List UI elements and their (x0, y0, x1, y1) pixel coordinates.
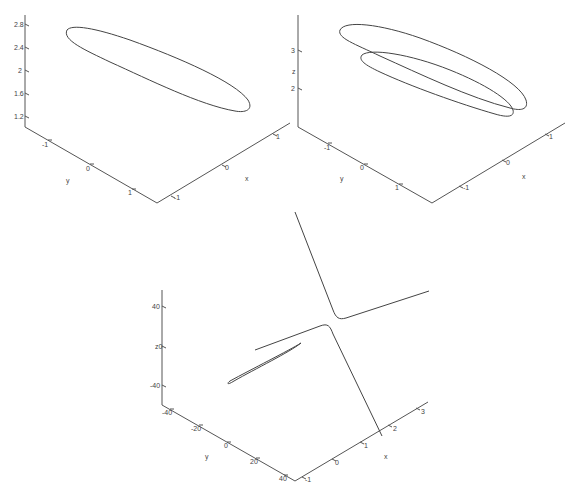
plot-1: 2.8 2.4 2 1.6 1.2 -1 0 1 y -1 0 1 (14, 15, 290, 203)
svg-text:-40: -40 (162, 409, 172, 416)
svg-text:-1: -1 (463, 184, 469, 191)
svg-text:-40: -40 (150, 382, 160, 389)
svg-text:0: 0 (506, 159, 510, 166)
svg-text:3: 3 (291, 47, 295, 54)
plot-2: 3 z 2 -1 0 1 y -1 0 1 x (291, 15, 565, 203)
svg-text:2.8: 2.8 (14, 21, 24, 28)
plot1-x-label: x (245, 175, 249, 182)
plot3-y-axis (162, 405, 295, 481)
svg-text:0: 0 (335, 459, 339, 466)
svg-text:1: 1 (128, 189, 132, 196)
plot1-y-axis (25, 127, 157, 203)
plot2-y-ticks: -1 0 1 (324, 143, 403, 191)
svg-text:2: 2 (291, 85, 295, 92)
plot2-x-ticks: -1 0 1 (459, 133, 553, 191)
plot-3: 40 z0 -40 -40 -20 0 20 40 y -1 0 1 (150, 212, 429, 483)
svg-text:20: 20 (250, 458, 258, 465)
svg-text:-20: -20 (191, 425, 201, 432)
plot3-x-label: x (384, 453, 388, 460)
svg-text:1: 1 (364, 442, 368, 449)
plot1-x-ticks: -1 0 1 (171, 133, 280, 201)
svg-text:40: 40 (152, 303, 160, 310)
svg-text:1: 1 (395, 184, 399, 191)
plot3-steep-branch (295, 212, 429, 319)
plot2-y-label: y (340, 175, 344, 183)
svg-text:3: 3 (421, 408, 425, 415)
svg-text:1: 1 (549, 133, 553, 140)
svg-text:2.4: 2.4 (14, 44, 24, 51)
svg-text:z0: z0 (155, 343, 163, 350)
plot3-thin-loop (228, 343, 301, 384)
svg-text:0: 0 (360, 164, 364, 171)
plot2-x-label: x (522, 173, 526, 180)
svg-text:z: z (292, 68, 296, 75)
plot1-x-axis (157, 123, 290, 203)
plot3-shallow-branch (255, 325, 382, 436)
svg-text:40: 40 (279, 475, 287, 482)
svg-text:1.6: 1.6 (14, 90, 24, 97)
plot3-x-axis (295, 402, 428, 481)
plot3-x-ticks: -1 0 1 2 3 (302, 408, 425, 483)
plot3-y-ticks: -40 -20 0 20 40 (162, 409, 288, 482)
svg-text:-1: -1 (305, 476, 311, 483)
svg-text:2: 2 (393, 425, 397, 432)
plot1-z-ticks: 2.8 2.4 2 1.6 1.2 (14, 21, 29, 120)
svg-text:-1: -1 (174, 194, 180, 201)
plot1-ellipse-curve (66, 27, 250, 111)
plot1-y-label: y (66, 177, 70, 185)
svg-text:-1: -1 (324, 144, 330, 151)
plot3-z-ticks: 40 z0 -40 (150, 303, 166, 389)
svg-text:0: 0 (86, 165, 90, 172)
svg-text:0: 0 (225, 164, 229, 171)
plot2-x-axis (432, 123, 565, 203)
svg-text:-1: -1 (42, 141, 48, 148)
plot2-ellipse-outer (340, 24, 527, 109)
plot2-z-ticks: 3 z 2 (291, 47, 302, 92)
plot2-ellipse-inner (361, 52, 513, 116)
plot2-y-axis (298, 127, 432, 203)
plot1-y-ticks: -1 0 1 (42, 140, 136, 196)
svg-text:2: 2 (18, 67, 22, 74)
plot3-y-label: y (205, 453, 209, 461)
figure-canvas: 2.8 2.4 2 1.6 1.2 -1 0 1 y -1 0 1 (0, 0, 574, 494)
svg-text:1: 1 (276, 133, 280, 140)
svg-text:1.2: 1.2 (14, 113, 24, 120)
svg-text:0: 0 (224, 442, 228, 449)
